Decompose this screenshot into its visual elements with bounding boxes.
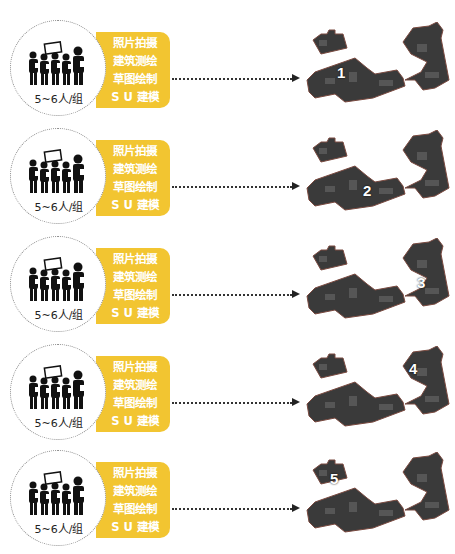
group-circle: 5~6人/组 bbox=[10, 20, 106, 116]
task-sketch: 草图绘制 bbox=[96, 70, 170, 88]
task-photo: 照片拍摄 bbox=[96, 464, 170, 482]
people-group-icon bbox=[27, 147, 91, 195]
people-group-icon bbox=[27, 363, 91, 411]
arrow-head-icon bbox=[292, 504, 300, 512]
task-photo: 照片拍摄 bbox=[96, 34, 170, 52]
group-circle: 5~6人/组 bbox=[10, 236, 106, 332]
dotted-arrow bbox=[172, 186, 292, 190]
arrow-head-icon bbox=[292, 290, 300, 298]
group-circle: 5~6人/组 bbox=[10, 128, 106, 224]
group-row-5: 5~6人/组 照片拍摄 建筑测绘 草图绘制 S U 建模 5 bbox=[0, 450, 455, 554]
arrow-head-icon bbox=[292, 398, 300, 406]
dotted-arrow bbox=[172, 294, 292, 298]
people-group-icon bbox=[27, 469, 91, 517]
site-map: 2 bbox=[305, 130, 455, 230]
task-survey: 建筑测绘 bbox=[96, 482, 170, 500]
task-su-model: S U 建模 bbox=[96, 412, 170, 430]
group-size-label: 5~6人/组 bbox=[11, 90, 107, 106]
task-su-model: S U 建模 bbox=[96, 88, 170, 106]
task-survey: 建筑测绘 bbox=[96, 268, 170, 286]
task-photo: 照片拍摄 bbox=[96, 142, 170, 160]
site-plan-icon bbox=[305, 452, 455, 552]
task-su-model: S U 建模 bbox=[96, 518, 170, 536]
map-number-label: 3 bbox=[417, 274, 425, 291]
people-group-icon bbox=[27, 39, 91, 87]
task-photo: 照片拍摄 bbox=[96, 250, 170, 268]
task-panel: 照片拍摄 建筑测绘 草图绘制 S U 建模 bbox=[96, 356, 170, 432]
dotted-arrow bbox=[172, 508, 292, 512]
arrow-head-icon bbox=[292, 74, 300, 82]
site-plan-icon bbox=[305, 346, 455, 446]
group-size-label: 5~6人/组 bbox=[11, 306, 107, 322]
task-sketch: 草图绘制 bbox=[96, 286, 170, 304]
map-number-label: 1 bbox=[337, 64, 345, 81]
task-sketch: 草图绘制 bbox=[96, 394, 170, 412]
group-row-2: 5~6人/组 照片拍摄 建筑测绘 草图绘制 S U 建模 2 bbox=[0, 128, 455, 236]
task-panel: 照片拍摄 建筑测绘 草图绘制 S U 建模 bbox=[96, 248, 170, 324]
task-su-model: S U 建模 bbox=[96, 304, 170, 322]
dotted-arrow bbox=[172, 402, 292, 406]
group-circle: 5~6人/组 bbox=[10, 450, 106, 546]
task-panel: 照片拍摄 建筑测绘 草图绘制 S U 建模 bbox=[96, 462, 170, 538]
task-su-model: S U 建模 bbox=[96, 196, 170, 214]
group-row-3: 5~6人/组 照片拍摄 建筑测绘 草图绘制 S U 建模 3 bbox=[0, 236, 455, 344]
site-map: 4 bbox=[305, 346, 455, 446]
group-circle: 5~6人/组 bbox=[10, 344, 106, 440]
task-survey: 建筑测绘 bbox=[96, 52, 170, 70]
task-sketch: 草图绘制 bbox=[96, 500, 170, 518]
task-panel: 照片拍摄 建筑测绘 草图绘制 S U 建模 bbox=[96, 32, 170, 108]
task-survey: 建筑测绘 bbox=[96, 376, 170, 394]
site-plan-icon bbox=[305, 130, 455, 230]
task-photo: 照片拍摄 bbox=[96, 358, 170, 376]
site-plan-icon bbox=[305, 238, 455, 338]
map-number-label: 5 bbox=[330, 470, 338, 487]
map-number-label: 2 bbox=[363, 182, 371, 199]
task-panel: 照片拍摄 建筑测绘 草图绘制 S U 建模 bbox=[96, 140, 170, 216]
group-size-label: 5~6人/组 bbox=[11, 520, 107, 536]
map-number-label: 4 bbox=[409, 360, 417, 377]
site-map: 1 bbox=[305, 22, 455, 122]
site-plan-icon bbox=[305, 22, 455, 122]
dotted-arrow bbox=[172, 78, 292, 82]
group-row-4: 5~6人/组 照片拍摄 建筑测绘 草图绘制 S U 建模 4 bbox=[0, 344, 455, 452]
group-size-label: 5~6人/组 bbox=[11, 198, 107, 214]
task-sketch: 草图绘制 bbox=[96, 178, 170, 196]
group-size-label: 5~6人/组 bbox=[11, 414, 107, 430]
task-survey: 建筑测绘 bbox=[96, 160, 170, 178]
people-group-icon bbox=[27, 255, 91, 303]
group-row-1: 5~6人/组 照片拍摄 建筑测绘 草图绘制 S U 建模 1 bbox=[0, 20, 455, 128]
arrow-head-icon bbox=[292, 182, 300, 190]
site-map: 5 bbox=[305, 452, 455, 552]
site-map: 3 bbox=[305, 238, 455, 338]
